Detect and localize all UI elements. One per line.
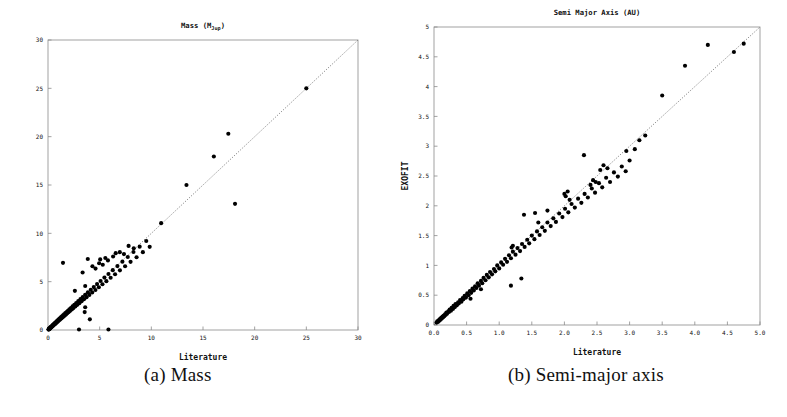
data-point: [120, 260, 124, 264]
x-axis-label: Literature: [179, 352, 227, 360]
data-point: [106, 258, 110, 262]
data-point: [148, 245, 152, 249]
data-point: [118, 268, 122, 272]
y-tick-label: 20: [36, 133, 44, 140]
data-point: [525, 238, 529, 242]
data-point: [513, 253, 517, 257]
data-point: [600, 185, 604, 189]
data-point: [111, 268, 115, 272]
data-point: [608, 180, 612, 184]
data-point: [519, 276, 523, 280]
data-point: [509, 284, 513, 288]
data-point: [549, 224, 553, 228]
data-point: [115, 264, 119, 268]
x-tick-label: 0.0: [429, 329, 440, 336]
x-tick-label: 25: [303, 334, 311, 341]
data-point: [566, 210, 570, 214]
x-tick-label: 4.0: [689, 329, 700, 336]
data-point: [468, 297, 472, 301]
data-point: [138, 245, 142, 249]
y-tick-label: 25: [36, 85, 44, 92]
data-point: [545, 220, 549, 224]
data-point: [83, 305, 87, 309]
data-point: [742, 42, 746, 46]
data-point: [97, 261, 101, 265]
data-point: [114, 251, 118, 255]
y-tick-label: 4: [425, 83, 429, 90]
data-point: [141, 250, 145, 254]
data-point: [573, 206, 577, 210]
data-point: [304, 86, 308, 90]
data-point: [643, 133, 647, 137]
mass-scatter-plot: Mass (MJup)051015202530051015202530Liter…: [0, 0, 393, 360]
data-point: [88, 317, 92, 321]
data-point: [100, 282, 104, 286]
data-point: [554, 220, 558, 224]
data-point: [144, 239, 148, 243]
data-point: [505, 260, 509, 264]
data-point: [633, 147, 637, 151]
data-point: [530, 234, 534, 238]
data-point: [568, 198, 572, 202]
data-point: [563, 207, 567, 211]
data-point: [582, 153, 586, 157]
data-point: [226, 132, 230, 136]
data-point: [159, 221, 163, 225]
x-axis-label: Literature: [573, 347, 621, 357]
data-point: [594, 180, 598, 184]
data-point: [77, 327, 81, 331]
data-point: [511, 244, 515, 248]
x-tick-label: 2.5: [592, 329, 603, 336]
data-point: [212, 154, 216, 158]
data-point: [83, 310, 87, 314]
x-tick-label: 10: [148, 334, 156, 341]
data-point: [593, 191, 597, 195]
y-axis-label: EXOFIT: [401, 161, 410, 190]
x-tick-label: 20: [251, 334, 259, 341]
data-point: [104, 279, 108, 283]
data-point: [83, 284, 87, 288]
data-point: [564, 194, 568, 198]
data-point: [134, 255, 138, 259]
x-tick-label: 15: [199, 334, 207, 341]
data-point: [598, 168, 602, 172]
data-point: [588, 183, 592, 187]
data-point: [131, 250, 135, 254]
x-tick-label: 2.0: [559, 329, 570, 336]
data-point: [570, 202, 574, 206]
data-point: [624, 169, 628, 173]
data-point: [73, 289, 77, 293]
data-point: [101, 263, 105, 267]
y-tick-label: 2.5: [418, 172, 429, 179]
data-point: [86, 257, 90, 261]
y-tick-label: 3: [425, 142, 429, 149]
data-point: [612, 170, 616, 174]
data-point: [637, 138, 641, 142]
data-point: [576, 197, 580, 201]
y-tick-label: 10: [36, 230, 44, 237]
data-point: [543, 229, 547, 233]
data-point: [109, 276, 113, 280]
plot-title: Mass (MJup): [181, 21, 225, 32]
y-tick-label: 1.5: [418, 232, 429, 239]
data-point: [127, 244, 131, 248]
data-point: [118, 250, 122, 254]
data-point: [560, 215, 564, 219]
data-point: [706, 43, 710, 47]
data-point: [586, 195, 590, 199]
data-point: [583, 192, 587, 196]
data-point: [732, 50, 736, 54]
y-tick-label: 0.5: [418, 291, 429, 298]
x-tick-label: 0.5: [461, 329, 472, 336]
data-point: [538, 233, 542, 237]
y-tick-label: 1: [425, 262, 429, 269]
data-point: [106, 272, 110, 276]
data-point: [98, 257, 102, 261]
data-point: [551, 216, 555, 220]
data-point: [106, 327, 110, 331]
data-point: [616, 175, 620, 179]
data-point: [93, 288, 97, 292]
data-point: [523, 245, 527, 249]
plot-panels: Mass (MJup)051015202530051015202530Liter…: [0, 0, 787, 360]
y-tick-label: 0: [425, 321, 429, 328]
